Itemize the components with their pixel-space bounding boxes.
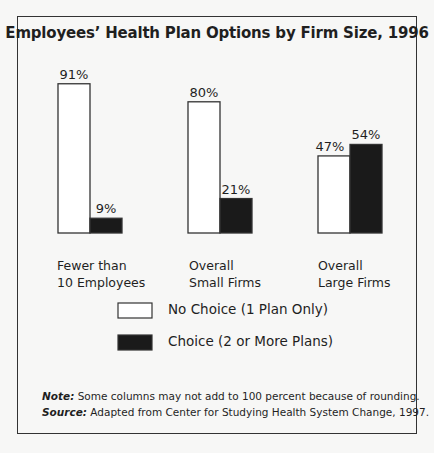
bar-no-choice-2 (318, 156, 350, 233)
bar-chart: 91%9%80%21%47%54% (0, 0, 434, 453)
legend-swatch-choice (118, 335, 152, 350)
bar-no-choice-1 (188, 102, 220, 233)
source-label: Source: (42, 406, 87, 418)
note-line: Note: Some columns may not add to 100 pe… (42, 390, 420, 402)
bar-choice-0 (90, 218, 122, 233)
category-label-line: Fewer than (57, 257, 145, 274)
data-label: 91% (60, 67, 89, 82)
legend-label-choice: Choice (2 or More Plans) (168, 333, 333, 349)
category-label-line: Large Firms (318, 274, 391, 291)
data-label: 21% (222, 182, 251, 197)
data-label: 47% (316, 139, 345, 154)
category-label-line: Overall (189, 257, 261, 274)
legend-label-no-choice: No Choice (1 Plan Only) (168, 301, 328, 317)
category-label-line: Overall (318, 257, 391, 274)
note-label: Note: (42, 390, 74, 402)
category-label-line: Small Firms (189, 274, 261, 291)
category-label-0: Fewer than 10 Employees (57, 257, 145, 291)
category-label-line: 10 Employees (57, 274, 145, 291)
category-label-1: Overall Small Firms (189, 257, 261, 291)
source-line: Source: Adapted from Center for Studying… (42, 406, 429, 418)
data-label: 80% (190, 85, 219, 100)
data-label: 9% (96, 201, 117, 216)
bar-choice-2 (350, 144, 382, 233)
source-text: Adapted from Center for Studying Health … (90, 406, 429, 418)
note-text: Some columns may not add to 100 percent … (78, 390, 420, 402)
bar-no-choice-0 (58, 84, 90, 233)
data-label: 54% (352, 127, 381, 142)
legend-swatch-no-choice (118, 303, 152, 318)
category-label-2: Overall Large Firms (318, 257, 391, 291)
bar-choice-1 (220, 199, 252, 233)
